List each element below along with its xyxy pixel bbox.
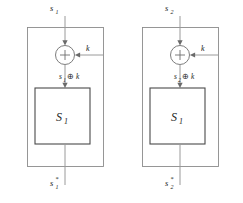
panel-right-sbox-label: S: [171, 110, 177, 124]
panel-right-output-label: s 2 *: [165, 175, 174, 190]
panel-left-output-base: s: [50, 178, 54, 188]
panel-left-intermediate-base: s: [59, 72, 62, 81]
panel-left-input-label: s: [50, 3, 54, 13]
panel-left-sbox: [35, 88, 90, 144]
panel-left-key-label: k: [86, 44, 90, 53]
panel-right-output-star: *: [171, 175, 174, 182]
panel-left-output-subscript: 1: [56, 184, 59, 190]
panel-left-mid-arrowhead: [62, 83, 67, 88]
panel-left-sbox-subscript: 1: [64, 117, 68, 126]
panel-right-key-arrowhead: [190, 52, 195, 57]
panel-right-intermediate-oplus-icon: ⊕: [182, 72, 189, 81]
panel-left-intermediate-oplus-icon: ⊕: [67, 72, 74, 81]
panel-left-output-star: *: [56, 175, 59, 182]
panel-left-sbox-label: S: [56, 110, 62, 124]
panel-right-mid-arrowhead: [177, 83, 182, 88]
figure-root: s 1 k s 1 ⊕ k S 1: [0, 0, 243, 203]
panel-right-sbox-subscript: 1: [179, 117, 183, 126]
panel-left: s 1 k s 1 ⊕ k S 1: [28, 3, 104, 190]
panel-right-intermediate-key: k: [191, 72, 195, 81]
panel-left-key-arrowhead: [75, 52, 80, 57]
panel-left-input-arrowhead: [62, 40, 67, 45]
panel-right-intermediate-label: s 2 ⊕ k: [174, 72, 195, 83]
panel-right-key-label: k: [201, 44, 205, 53]
panel-left-intermediate-key: k: [76, 72, 80, 81]
panel-right-sbox: [150, 88, 205, 144]
panel-right-input-label: s: [165, 3, 169, 13]
panel-right: s 2 k s 2 ⊕ k S 1: [143, 3, 219, 190]
panel-right-input-arrowhead: [177, 40, 182, 45]
panel-right-intermediate-base: s: [174, 72, 177, 81]
panel-left-input-subscript: 1: [56, 9, 59, 15]
panel-left-intermediate-label: s 1 ⊕ k: [59, 72, 80, 83]
panel-right-input-subscript: 2: [171, 9, 174, 15]
panel-left-output-label: s 1 *: [50, 175, 59, 190]
panel-right-output-subscript: 2: [171, 184, 174, 190]
panel-right-output-base: s: [165, 178, 169, 188]
cipher-block-diagram: s 1 k s 1 ⊕ k S 1: [0, 0, 243, 203]
